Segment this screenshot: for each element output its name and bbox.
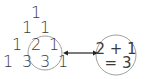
double-arrow-icon xyxy=(63,51,98,56)
equation-line2: = 3 xyxy=(105,56,132,71)
row3-value0: 1 xyxy=(3,54,13,70)
row3-value1: 3 xyxy=(22,54,32,70)
row1-value1: 1 xyxy=(40,20,50,36)
row2-value1: 2 xyxy=(31,37,41,53)
row3-value3: 1 xyxy=(58,54,68,70)
row3-value2: 3 xyxy=(40,54,50,70)
row2-value0: 1 xyxy=(12,37,22,53)
row2-value2: 1 xyxy=(49,37,59,53)
row1-value0: 1 xyxy=(22,20,32,36)
